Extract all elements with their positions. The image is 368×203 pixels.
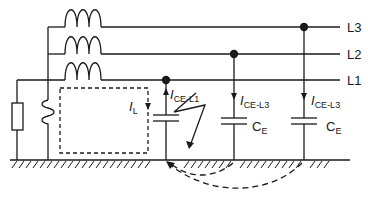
capacitor-label-CE: CE bbox=[252, 119, 267, 136]
arrow-icon bbox=[166, 161, 175, 169]
node-dot-L1 bbox=[162, 76, 170, 84]
resistor-icon bbox=[12, 103, 23, 130]
circuit-diagram: L3 L2 L1 IL ICE-L1 ICE-L3 ICE-L3 CE CE bbox=[0, 0, 368, 203]
phase-label-L2: L2 bbox=[347, 47, 361, 62]
phase-label-L3: L3 bbox=[347, 20, 361, 35]
node-dot-L2 bbox=[230, 50, 238, 58]
phase-L2-line bbox=[48, 37, 340, 54]
resistor-branch bbox=[12, 80, 23, 160]
current-label-ICE-L1: ICE-L1 bbox=[170, 87, 199, 104]
capacitor-label-CE: CE bbox=[326, 119, 341, 136]
fault-current-loop bbox=[60, 88, 148, 153]
arrow-up-icon bbox=[163, 88, 169, 95]
return-current-path bbox=[170, 163, 233, 175]
arrow-down-icon bbox=[145, 103, 151, 110]
arrow-down-icon bbox=[301, 93, 307, 100]
inductor-icon bbox=[65, 10, 101, 27]
arrow-down-icon bbox=[231, 93, 237, 100]
return-current-path bbox=[168, 163, 302, 188]
node-dot-L3 bbox=[300, 23, 308, 31]
arrow-down-icon bbox=[186, 141, 194, 149]
vertical-inductor-icon bbox=[42, 100, 54, 126]
inductor-icon bbox=[65, 37, 101, 54]
current-label-IL: IL bbox=[129, 99, 138, 116]
phase-label-L1: L1 bbox=[347, 73, 361, 88]
phase-L1-line bbox=[17, 63, 340, 80]
current-label-ICE-L2: ICE-L3 bbox=[240, 93, 269, 110]
current-label-ICE-L3: ICE-L3 bbox=[311, 93, 340, 110]
inductor-icon bbox=[65, 63, 101, 80]
phase-L3-line bbox=[48, 10, 340, 27]
